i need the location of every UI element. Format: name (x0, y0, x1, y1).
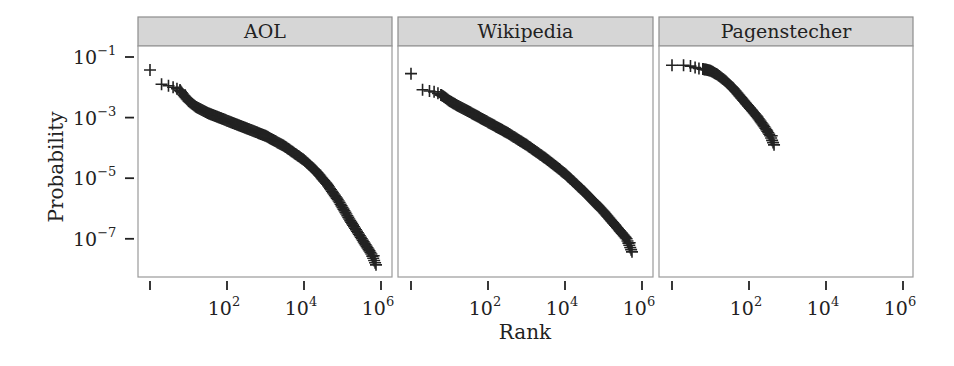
facet-aol: AOL102104106 (138, 17, 394, 319)
y-tick-label: 10−7 (73, 225, 116, 250)
x-axis: 102104106 (411, 281, 655, 319)
y-tick-label: 10−3 (73, 104, 116, 129)
x-tick-label: 106 (884, 294, 916, 319)
x-tick-label: 106 (623, 294, 655, 319)
facet-wikipedia: Wikipedia102104106 (398, 17, 655, 319)
facet-panels: AOL102104106Wikipedia102104106Pagenstech… (138, 17, 916, 319)
x-tick-label: 104 (285, 294, 317, 319)
facet-strip-label: Wikipedia (478, 20, 574, 42)
y-tick-label: 10−1 (73, 43, 116, 68)
facet-strip-label: Pagenstecher (721, 20, 853, 42)
x-axis-title: Rank (499, 320, 552, 344)
faceted-rank-probability-chart: AOL102104106Wikipedia102104106Pagenstech… (0, 0, 954, 366)
x-tick-label: 102 (469, 294, 501, 319)
x-tick-label: 106 (362, 294, 394, 319)
x-tick-label: 104 (546, 294, 578, 319)
y-axis-title: Probability (44, 111, 68, 223)
y-axis: 10−110−310−510−7 (73, 43, 134, 250)
plot-area (659, 46, 913, 277)
x-axis: 102104106 (150, 281, 394, 319)
y-tick-label: 10−5 (73, 164, 116, 189)
x-tick-label: 102 (208, 294, 240, 319)
plot-area (138, 46, 392, 277)
x-axis: 102104106 (672, 281, 916, 319)
plot-area (398, 46, 653, 277)
facet-strip-label: AOL (243, 20, 286, 42)
x-tick-label: 102 (730, 294, 762, 319)
x-tick-label: 104 (807, 294, 839, 319)
facet-pagenstecher: Pagenstecher102104106 (659, 17, 916, 319)
